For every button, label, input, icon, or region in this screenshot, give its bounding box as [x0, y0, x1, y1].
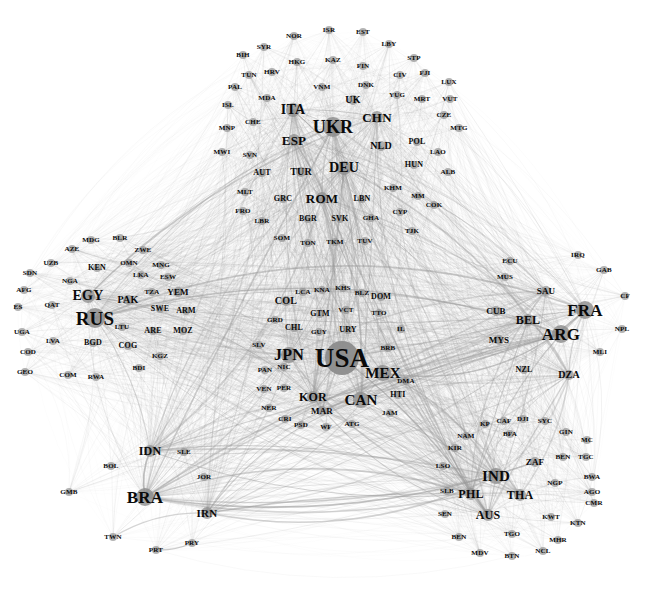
graph-edges-layer [0, 0, 662, 597]
network-graph-figure: NORISRESTSYRLBYBIHHKGKAZSTPHRVFINTUNCIVF… [0, 0, 662, 597]
